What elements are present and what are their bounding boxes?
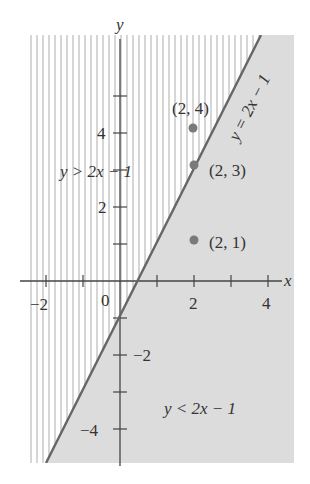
point-2-3 [190, 161, 199, 170]
x-tick-label-4: 4 [262, 294, 271, 313]
x-tick-label-neg2: −2 [30, 295, 48, 314]
inequality-graph: y x −2 0 2 4 4 2 −2 −4 (2, 4) (2, 3) (2,… [0, 0, 310, 484]
y-tick-label-4: 4 [97, 124, 106, 143]
y-axis-label: y [114, 15, 124, 34]
x-axis-label: x [283, 271, 292, 290]
point-label-2-3: (2, 3) [209, 161, 246, 180]
y-tick-label-neg4: −4 [80, 421, 99, 440]
region-above-label: y > 2x − 1 [58, 162, 132, 181]
y-tick-label-2: 2 [98, 198, 107, 217]
region-below-label: y < 2x − 1 [162, 399, 236, 418]
point-2-4 [189, 124, 198, 133]
point-label-2-1: (2, 1) [209, 233, 246, 252]
point-label-2-4: (2, 4) [172, 99, 209, 118]
point-2-1 [190, 236, 199, 245]
y-tick-label-neg2: −2 [133, 346, 151, 365]
x-tick-label-2: 2 [189, 294, 198, 313]
origin-label: 0 [101, 291, 110, 310]
